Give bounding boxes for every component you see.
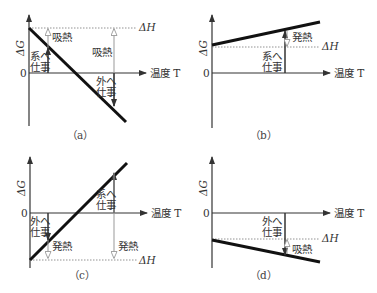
zero-label: 0: [203, 207, 210, 219]
gibbs-energy-diagram: 0 ΔG 温度 T ΔH 吸熱 系へ 仕事 吸熱 外へ 仕事 （a） 0 ΔG …: [0, 0, 377, 293]
panel-c: 0 ΔG 温度 T ΔH 外へ 仕事 発熱 系へ 仕事 発熱 （c）: [15, 157, 181, 281]
x-axis-label: 温度 T: [150, 67, 180, 79]
x-axis-label: 温度 T: [151, 207, 181, 219]
left-work-label: 仕事: [30, 226, 51, 238]
y-axis-label: ΔG: [14, 40, 26, 57]
y-axis-label: ΔG: [15, 180, 27, 197]
delta-h-label: ΔH: [321, 232, 340, 244]
panel-caption: （d）: [250, 269, 277, 281]
panel-a: 0 ΔG 温度 T ΔH 吸熱 系へ 仕事 吸熱 外へ 仕事 （a）: [14, 15, 180, 141]
zero-label: 0: [21, 207, 28, 219]
left-work-label: 仕事: [30, 61, 51, 73]
delta-h-label: ΔH: [138, 21, 157, 33]
panel-caption: （a）: [67, 129, 93, 141]
right-work-label: 仕事: [96, 199, 117, 211]
heat-label: 吸熱: [292, 243, 313, 255]
panel-caption: （b）: [250, 129, 277, 141]
panel-d: 0 ΔG 温度 T ΔH 外へ 仕事 吸熱 （d）: [197, 157, 364, 281]
panel-b: 0 ΔG 温度 T ΔH 発熱 系へ 仕事 （b）: [197, 15, 364, 141]
heat-label: 発熱: [292, 31, 313, 43]
delta-h-label: ΔH: [138, 254, 157, 266]
delta-g-line: [30, 163, 127, 260]
y-axis-label: ΔG: [197, 180, 209, 197]
left-heat-label: 吸熱: [52, 31, 73, 43]
work-label: 仕事: [262, 226, 283, 238]
delta-h-label: ΔH: [321, 40, 340, 52]
left-heat-label: 発熱: [52, 240, 73, 252]
work-label: 仕事: [262, 61, 283, 73]
panel-caption: （c）: [69, 269, 95, 281]
y-axis-label: ΔG: [197, 40, 209, 57]
right-heat-label: 吸熱: [92, 46, 113, 58]
x-axis-label: 温度 T: [334, 67, 364, 79]
right-work-label: 仕事: [96, 86, 117, 98]
x-axis-label: 温度 T: [334, 207, 364, 219]
zero-label: 0: [203, 67, 210, 79]
right-heat-label: 発熱: [118, 240, 139, 252]
zero-label: 0: [20, 67, 27, 79]
